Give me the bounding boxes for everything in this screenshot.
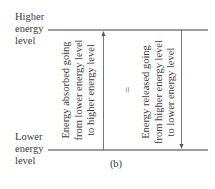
figure-caption: (b)	[110, 158, 122, 169]
higher-label-line: energy	[15, 23, 44, 35]
lower-label-line: level	[15, 155, 43, 167]
absorption-arrowhead-icon	[102, 31, 106, 36]
higher-label-line: Higher	[15, 11, 44, 23]
released-text-line: from higher energy level	[153, 40, 166, 144]
lower-label-line: Lower	[15, 131, 43, 143]
higher-label-line: level	[15, 35, 44, 47]
release-arrowhead-icon	[180, 144, 184, 149]
release-arrow	[180, 30, 184, 149]
higher-energy-level-label: Higher energy level	[15, 11, 44, 47]
lower-energy-level-label: Lower energy level	[15, 131, 43, 167]
released-text-line: Energy released going	[140, 40, 153, 144]
absorption-arrow	[102, 31, 106, 150]
equals-sign: =	[121, 87, 133, 93]
lower-label-line: energy	[15, 143, 43, 155]
absorbed-text-line: Energy absorbed going	[60, 40, 73, 141]
energy-released-description: Energy released going from higher energy…	[140, 40, 178, 144]
energy-absorbed-description: Energy absorbed going from lower energy …	[60, 40, 98, 141]
absorbed-text-line: from lower energy level	[73, 40, 86, 141]
released-text-line: to lower energy level	[165, 40, 178, 144]
absorbed-text-line: to higher energy level	[85, 40, 98, 141]
